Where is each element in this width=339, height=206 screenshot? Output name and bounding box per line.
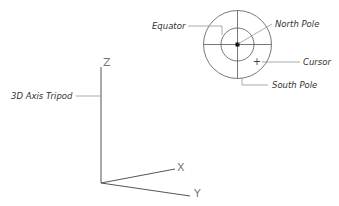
x-axis-label: X bbox=[177, 161, 185, 174]
south-pole-label: South Pole bbox=[272, 80, 317, 90]
axis-tripod bbox=[101, 67, 190, 196]
north-pole-label: North Pole bbox=[275, 19, 319, 29]
tripod-label: 3D Axis Tripod bbox=[11, 91, 73, 101]
equator-label: Equator bbox=[152, 21, 186, 31]
cursor-icon: + bbox=[253, 56, 261, 67]
south-pole-leader bbox=[242, 78, 268, 85]
y-axis bbox=[101, 183, 190, 196]
north-pole-leader bbox=[238, 24, 272, 44]
cursor-label: Cursor bbox=[303, 57, 331, 67]
x-axis bbox=[101, 169, 175, 183]
compass-tripod-diagram: + Equator North Pole Cursor South Pole Z… bbox=[0, 0, 339, 206]
compass: + bbox=[204, 11, 272, 79]
y-axis-label: Y bbox=[193, 187, 201, 200]
diagram-canvas: + Equator North Pole Cursor South Pole Z… bbox=[0, 0, 339, 206]
z-axis-label: Z bbox=[103, 56, 111, 69]
